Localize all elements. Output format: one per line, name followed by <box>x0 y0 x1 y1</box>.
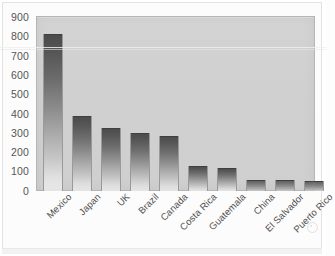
y-tick-400: 400 <box>11 108 29 120</box>
x-label-china: China <box>251 191 277 217</box>
x-label-japan: Japan <box>76 191 102 217</box>
y-tick-300: 300 <box>11 127 29 139</box>
scan-watermark-icon <box>306 221 319 234</box>
bar-mexico <box>43 34 63 191</box>
bar-costa-rica <box>188 166 208 191</box>
x-axis: Mexico Japan UK Brazil Canada Costa Rica… <box>0 191 326 256</box>
bar-el-salvador <box>275 180 295 191</box>
bar-japan <box>72 116 92 191</box>
y-tick-600: 600 <box>11 69 29 81</box>
y-tick-900: 900 <box>11 11 29 23</box>
bar-guatemala <box>217 168 237 191</box>
bar-brazil <box>130 133 150 191</box>
bar-series <box>37 17 314 191</box>
bar-uk <box>101 128 121 191</box>
watermark-ring <box>307 222 318 233</box>
x-label-uk: UK <box>115 191 132 208</box>
y-tick-200: 200 <box>11 146 29 158</box>
y-tick-100: 100 <box>11 165 29 177</box>
x-label-mexico: Mexico <box>44 191 73 220</box>
y-tick-500: 500 <box>11 88 29 100</box>
bar-china <box>246 180 266 191</box>
bar-canada <box>159 136 179 191</box>
page-bottom-edge <box>2 248 322 254</box>
x-label-brazil: Brazil <box>136 191 161 216</box>
y-tick-700: 700 <box>11 50 29 62</box>
y-tick-800: 800 <box>11 30 29 42</box>
bar-puerto-rico <box>304 181 324 191</box>
y-axis: 900 800 700 600 500 400 300 200 100 0 <box>0 16 33 192</box>
